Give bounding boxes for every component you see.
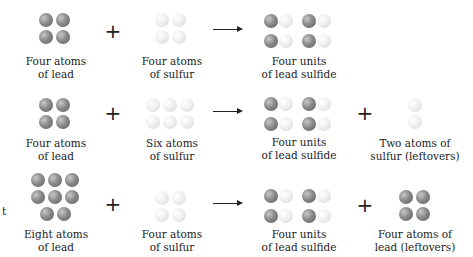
lead-atom bbox=[302, 34, 316, 48]
label-line: of lead bbox=[26, 68, 86, 81]
lead-atom bbox=[40, 207, 54, 221]
label-line: Four atoms of bbox=[375, 228, 456, 241]
reactant2-label: Six atoms of sulfur bbox=[146, 137, 198, 163]
reactant2-label: Four atoms of sulfur bbox=[142, 55, 202, 81]
lead-atom bbox=[264, 209, 278, 223]
sulfur-atom bbox=[408, 115, 422, 129]
lead-atom bbox=[56, 115, 70, 129]
sulfur-atom bbox=[155, 30, 169, 44]
lead-atom bbox=[416, 207, 430, 221]
plus-sign: + bbox=[357, 195, 374, 215]
lead-atom bbox=[31, 173, 45, 187]
lead-atom bbox=[264, 117, 278, 131]
lead-atom bbox=[56, 13, 70, 27]
sulfur-atom bbox=[317, 209, 331, 223]
sulfur-atom bbox=[279, 209, 293, 223]
lead-atom bbox=[264, 34, 278, 48]
product2-label: Four atoms of lead (leftovers) bbox=[375, 228, 456, 254]
lead-atom bbox=[56, 98, 70, 112]
lead-atom bbox=[416, 190, 430, 204]
lead-atom bbox=[399, 207, 413, 221]
lead-atom bbox=[39, 115, 53, 129]
sulfur-atom bbox=[317, 14, 331, 28]
label-line: of lead bbox=[26, 150, 86, 163]
sulfur-atom bbox=[279, 14, 293, 28]
sulfur-atom bbox=[180, 98, 194, 112]
reactant1-label: Four atoms of lead bbox=[26, 55, 86, 81]
sulfur-atom bbox=[279, 97, 293, 111]
sulfur-atom bbox=[317, 34, 331, 48]
plus-sign: + bbox=[105, 103, 122, 123]
lead-atom bbox=[302, 209, 316, 223]
plus-sign: + bbox=[357, 103, 374, 123]
sulfur-atom bbox=[163, 98, 177, 112]
label-line: sulfur (leftovers) bbox=[370, 150, 459, 163]
label-line: Four units bbox=[262, 55, 337, 68]
sulfur-atom bbox=[408, 98, 422, 112]
label-line: Four atoms bbox=[142, 228, 202, 241]
label-line: of lead sulfide bbox=[262, 241, 337, 254]
product1-label: Four units of lead sulfide bbox=[262, 228, 337, 254]
reaction-arrow-icon bbox=[213, 29, 241, 30]
label-line: Four atoms bbox=[26, 55, 86, 68]
lead-atom bbox=[302, 97, 316, 111]
reactant2-label: Four atoms of sulfur bbox=[142, 228, 202, 254]
reaction-arrow-icon bbox=[213, 203, 241, 204]
label-line: lead (leftovers) bbox=[375, 241, 456, 254]
lead-atom bbox=[399, 190, 413, 204]
lead-atom bbox=[39, 13, 53, 27]
lead-atom bbox=[264, 97, 278, 111]
sulfur-atom bbox=[155, 191, 169, 205]
margin-fragment: t bbox=[2, 205, 6, 217]
label-line: Four atoms bbox=[26, 137, 86, 150]
sulfur-atom bbox=[279, 189, 293, 203]
sulfur-atom bbox=[317, 189, 331, 203]
lead-atom bbox=[48, 173, 62, 187]
lead-atom bbox=[65, 173, 79, 187]
lead-atom bbox=[39, 30, 53, 44]
reactant1-label: Four atoms of lead bbox=[26, 137, 86, 163]
product2-label: Two atoms of sulfur (leftovers) bbox=[370, 137, 459, 163]
label-line: of lead bbox=[24, 241, 88, 254]
label-line: Four atoms bbox=[142, 55, 202, 68]
label-line: of sulfur bbox=[146, 150, 198, 163]
label-line: Two atoms of bbox=[370, 137, 459, 150]
lead-atom bbox=[302, 117, 316, 131]
sulfur-atom bbox=[163, 115, 177, 129]
lead-atom bbox=[302, 14, 316, 28]
sulfur-atom bbox=[155, 13, 169, 27]
lead-atom bbox=[31, 190, 45, 204]
label-line: of lead sulfide bbox=[262, 149, 337, 162]
label-line: of lead sulfide bbox=[262, 68, 337, 81]
sulfur-atom bbox=[172, 191, 186, 205]
product1-label: Four units of lead sulfide bbox=[262, 55, 337, 81]
sulfur-atom bbox=[146, 98, 160, 112]
sulfur-atom bbox=[180, 115, 194, 129]
sulfur-atom bbox=[317, 117, 331, 131]
sulfur-atom bbox=[155, 208, 169, 222]
reactant1-label: Eight atoms of lead bbox=[24, 228, 88, 254]
label-line: of sulfur bbox=[142, 241, 202, 254]
sulfur-atom bbox=[172, 208, 186, 222]
lead-atom bbox=[264, 14, 278, 28]
lead-atom bbox=[56, 30, 70, 44]
sulfur-atom bbox=[317, 97, 331, 111]
lead-atom bbox=[57, 207, 71, 221]
label-line: of sulfur bbox=[142, 68, 202, 81]
sulfur-atom bbox=[279, 117, 293, 131]
sulfur-atom bbox=[146, 115, 160, 129]
plus-sign: + bbox=[105, 194, 122, 214]
label-line: Eight atoms bbox=[24, 228, 88, 241]
lead-atom bbox=[39, 98, 53, 112]
sulfur-atom bbox=[172, 13, 186, 27]
product1-label: Four units of lead sulfide bbox=[262, 136, 337, 162]
lead-atom bbox=[65, 190, 79, 204]
sulfur-atom bbox=[172, 30, 186, 44]
label-line: Four units bbox=[262, 228, 337, 241]
sulfur-atom bbox=[279, 34, 293, 48]
label-line: Four units bbox=[262, 136, 337, 149]
lead-atom bbox=[264, 189, 278, 203]
reaction-arrow-icon bbox=[213, 111, 241, 112]
label-line: Six atoms bbox=[146, 137, 198, 150]
lead-atom bbox=[48, 190, 62, 204]
